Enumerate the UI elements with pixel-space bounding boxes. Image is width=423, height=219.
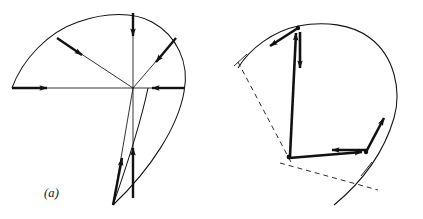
panel-b: vb b rb F rb⊥ va F a ra ra⊥ (b) (212, 0, 423, 219)
panel-a-drawing (0, 0, 212, 219)
position-vector-rb (290, 33, 296, 156)
panel-a: (a) (0, 0, 212, 219)
lever-arm-rb-perp-dashed (238, 62, 292, 164)
panel-a-caption: (a) (44, 186, 59, 201)
point-a-marker (364, 150, 368, 154)
orbit-curve-b (238, 24, 397, 205)
lever-arm-ra-perp-tick (361, 162, 372, 176)
position-vector-ra (289, 152, 362, 158)
velocity-vector-va (366, 118, 384, 152)
point-b-marker (296, 26, 300, 30)
orbit-curve-a (12, 15, 185, 206)
force-arrow-upper-left (57, 38, 82, 55)
force-arrow-upper-right (156, 38, 176, 62)
panel-b-drawing (212, 0, 423, 219)
figure-root: (a) (0, 0, 423, 219)
